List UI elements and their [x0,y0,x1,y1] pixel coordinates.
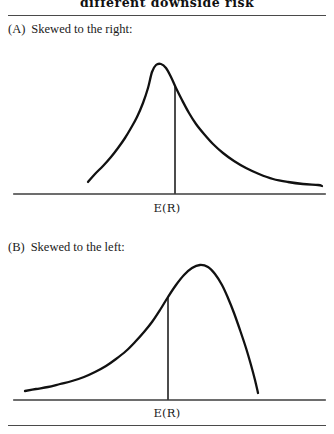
horizontal-rule-bottom [8,425,326,426]
density-curve-left-skewed [25,265,258,393]
chart-a [0,50,334,200]
x-axis-label-a: E(R) [0,201,334,215]
panel-b-caption: (B)Skewed to the left: [8,240,125,255]
panel-a-caption: (A)Skewed to the right: [8,22,132,37]
panel-a-tag: (A) [8,22,25,36]
horizontal-rule-top [8,15,326,16]
figure-page: different downside risk (A)Skewed to the… [0,0,334,434]
figure-title: different downside risk [0,0,334,10]
panel-b-tag: (B) [8,240,25,254]
panel-a-caption-text: Skewed to the right: [31,22,132,36]
panel-b-caption-text: Skewed to the left: [31,240,125,254]
x-axis-label-b: E(R) [0,406,334,420]
density-curve-right-skewed [88,64,322,186]
chart-b [0,258,334,406]
